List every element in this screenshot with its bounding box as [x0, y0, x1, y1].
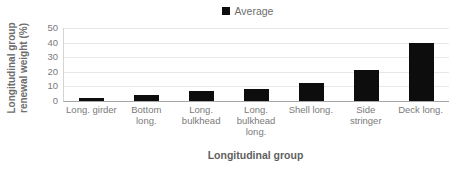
- x-tick-long-girder: Long. girder: [64, 104, 119, 144]
- chart-legend: Average: [0, 2, 455, 20]
- y-axis-title-line2: renewal weight (%): [17, 18, 29, 118]
- bar-slot-long-bulkhead: [174, 28, 229, 101]
- y-tick-40: 40: [47, 38, 58, 48]
- x-axis-ticks: Long. girder Bottom long. Long. bulkhead…: [64, 104, 448, 144]
- bar-slot-long-girder: [64, 28, 119, 101]
- y-tick-0: 0: [53, 96, 58, 106]
- x-tick-deck-long: Deck long.: [393, 104, 448, 144]
- bar-bottom-long[interactable]: [134, 95, 158, 101]
- bar-series-average: [64, 28, 449, 101]
- square-marker-icon: [222, 7, 230, 15]
- x-tick-long-bulkhead-long: Long. bulkhead long.: [229, 104, 284, 144]
- bar-side-stringer[interactable]: [354, 70, 378, 101]
- bar-deck-long[interactable]: [409, 43, 433, 101]
- y-tick-50: 50: [47, 23, 58, 33]
- bar-slot-long-bulkhead-long: [229, 28, 284, 101]
- plot-area: [63, 28, 449, 102]
- y-tick-30: 30: [47, 52, 58, 62]
- y-tick-10: 10: [47, 82, 58, 92]
- x-tick-bottom-long: Bottom long.: [119, 104, 174, 144]
- y-axis-title-line1: Longitudinal group: [6, 22, 17, 113]
- bar-slot-shell-long: [284, 28, 339, 101]
- bar-long-bulkhead-long[interactable]: [244, 89, 268, 101]
- bar-slot-bottom-long: [119, 28, 174, 101]
- bar-long-girder[interactable]: [79, 98, 103, 101]
- bar-long-bulkhead[interactable]: [189, 91, 213, 101]
- bar-shell-long[interactable]: [299, 83, 323, 101]
- y-axis-title-wrap: Longitudinal group renewal weight (%): [2, 18, 32, 118]
- legend-entry-average[interactable]: Average: [222, 6, 274, 17]
- legend-label-average: Average: [235, 6, 274, 17]
- x-tick-shell-long: Shell long.: [283, 104, 338, 144]
- bar-slot-deck-long: [394, 28, 449, 101]
- x-axis-title: Longitudinal group: [63, 150, 448, 161]
- y-axis-title: Longitudinal group renewal weight (%): [6, 18, 29, 118]
- y-tick-20: 20: [47, 67, 58, 77]
- bar-chart: Average Longitudinal group renewal weigh…: [0, 0, 455, 172]
- y-axis-ticks: 50 40 30 20 10 0: [36, 28, 60, 101]
- x-tick-long-bulkhead: Long. bulkhead: [174, 104, 229, 144]
- x-tick-side-stringer: Side stringer: [338, 104, 393, 144]
- bar-slot-side-stringer: [339, 28, 394, 101]
